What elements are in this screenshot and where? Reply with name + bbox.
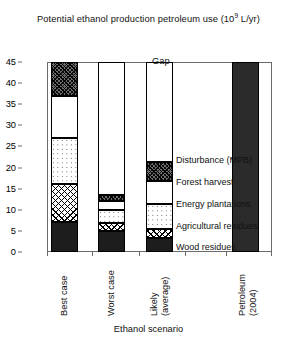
segment-wood-residues[interactable] — [146, 238, 173, 252]
legend-label-agricultural-residues: Agricultural residues — [176, 221, 258, 231]
segment-energy-plantations[interactable] — [51, 138, 78, 184]
bar-likely-average[interactable] — [146, 62, 173, 252]
y-tick-label-20: 20 — [6, 163, 16, 173]
segment-energy-plantations[interactable] — [98, 210, 125, 223]
x-label-petroleum-line1: Petroleum — [237, 274, 247, 316]
y-tick-label-5: 5 — [11, 226, 16, 236]
x-label-best-case-line1: Best case — [59, 276, 69, 316]
x-label-likely-line2: (average) — [160, 277, 171, 316]
y-tick-label-30: 30 — [6, 120, 16, 130]
y-tickmark-30 — [18, 125, 22, 126]
x-tickmark-1 — [92, 252, 93, 256]
y-tickmark-15 — [18, 188, 22, 189]
chart-container: Potential ethanol production petroleum u… — [0, 0, 297, 345]
y-tick-label-25: 25 — [6, 141, 16, 151]
segment-forest-harvest[interactable] — [51, 96, 78, 138]
x-label-worst-case-line1: Worst case — [106, 270, 116, 316]
bar-worst-case[interactable] — [98, 62, 125, 252]
x-tickmark-5 — [271, 252, 272, 256]
segment-disturbance-mpb[interactable] — [51, 62, 78, 96]
y-tick-label-45: 45 — [6, 57, 16, 67]
y-tickmark-25 — [18, 146, 22, 147]
segment-wood-residues[interactable] — [98, 231, 125, 252]
x-axis-title: Ethanol scenario — [0, 324, 297, 334]
x-label-likely-average: Likely (average) — [149, 277, 170, 316]
y-tickmark-20 — [18, 167, 22, 168]
segment-disturbance-mpb[interactable] — [146, 162, 173, 181]
segment-gap[interactable] — [98, 62, 125, 195]
y-tick-label-15: 15 — [6, 184, 16, 194]
legend-label-forest-harvest: Forest harvest — [176, 177, 234, 187]
x-label-best-case: Best case — [59, 276, 70, 316]
segment-agricultural-residues[interactable] — [98, 223, 125, 232]
segment-forest-harvest[interactable] — [146, 181, 173, 204]
x-tickmark-2 — [139, 252, 140, 256]
chart-title-main: Potential ethanol production petroleum u… — [37, 14, 234, 24]
y-tickmark-45 — [18, 62, 22, 63]
x-tickmark-0 — [47, 252, 48, 256]
y-tick-label-35: 35 — [6, 99, 16, 109]
y-tickmark-40 — [18, 83, 22, 84]
y-tickmark-10 — [18, 209, 22, 210]
y-tick-label-0: 0 — [11, 247, 16, 257]
segment-forest-harvest[interactable] — [98, 201, 125, 210]
bar-best-case[interactable] — [51, 62, 78, 252]
chart-title-tail: L/yr) — [238, 14, 260, 24]
y-tickmark-0 — [18, 252, 22, 253]
y-axis: 45 40 35 30 25 20 15 10 5 0 — [0, 0, 47, 345]
y-tickmark-35 — [18, 104, 22, 105]
y-tick-label-10: 10 — [6, 205, 16, 215]
gap-annotation-label: Gap — [152, 56, 170, 66]
segment-wood-residues[interactable] — [51, 222, 78, 252]
x-tickmark-4 — [226, 252, 227, 256]
y-tickmark-5 — [18, 230, 22, 231]
y-tick-label-40: 40 — [6, 78, 16, 88]
x-label-likely-line1: Likely — [149, 293, 159, 317]
segment-agricultural-residues[interactable] — [146, 229, 173, 238]
x-label-petroleum-line2: (2004) — [248, 274, 259, 316]
legend-label-disturbance-mpb: Disturbance (MPB) — [176, 155, 252, 165]
legend-label-energy-plantations: Energy plantations — [176, 199, 251, 209]
x-label-petroleum-2004: Petroleum (2004) — [237, 274, 258, 316]
segment-gap[interactable] — [146, 62, 173, 162]
x-label-worst-case: Worst case — [106, 270, 117, 316]
segment-energy-plantations[interactable] — [146, 204, 173, 229]
legend-label-wood-residues: Wood residues — [176, 242, 236, 252]
segment-agricultural-residues[interactable] — [51, 184, 78, 222]
x-tickmark-3 — [185, 252, 186, 256]
